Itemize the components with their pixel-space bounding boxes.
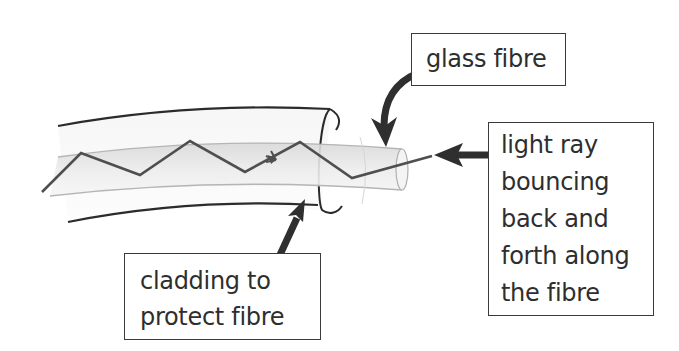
label-light-ray-line-2: bouncing [501,164,653,201]
label-glass-fibre: glass fibre [411,33,566,86]
label-light-ray: light ray bouncing back and forth along … [488,122,654,316]
label-light-ray-line-4: forth along [501,238,653,275]
fibre-end-ellipse [396,149,408,190]
label-light-ray-line-1: light ray [501,127,653,164]
light-ray-pointer-arrow [434,143,495,167]
label-light-ray-line-5: the fibre [501,275,653,312]
label-glass-fibre-line-1: glass fibre [426,44,565,74]
label-cladding-line-1: cladding to [140,263,320,299]
label-light-ray-line-3: back and [501,201,653,238]
label-cladding-line-2: protect fibre [140,299,320,335]
label-cladding: cladding to protect fibre [124,253,321,340]
